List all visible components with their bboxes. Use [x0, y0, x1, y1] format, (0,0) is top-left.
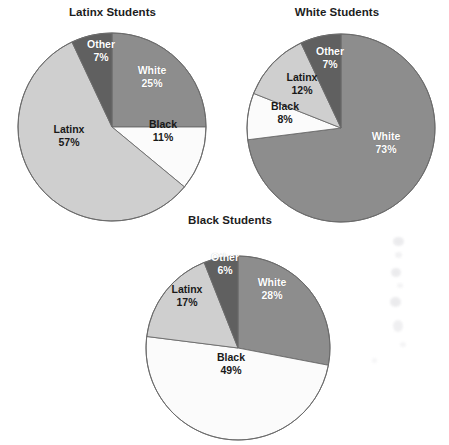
slice-label-latinx-students-latinx: Latinx57%: [29, 123, 109, 148]
slice-label-name: Other: [290, 45, 370, 58]
slice-label-white-students-latinx: Latinx12%: [262, 71, 342, 96]
slice-label-percent: 25%: [112, 77, 192, 90]
slice-label-name: White: [232, 276, 312, 289]
slice-label-latinx-students-black: Black11%: [123, 118, 203, 143]
slice-label-latinx-students-other: Other7%: [61, 38, 141, 63]
slice-label-percent: 57%: [29, 136, 109, 149]
slice-label-white-students-other: Other7%: [290, 45, 370, 70]
slice-label-white-students-white: White73%: [346, 130, 426, 155]
slice-label-name: Latinx: [29, 123, 109, 136]
slice-label-percent: 7%: [61, 51, 141, 64]
slice-label-percent: 73%: [346, 143, 426, 156]
slice-label-name: Black: [123, 118, 203, 131]
slice-label-percent: 11%: [123, 131, 203, 144]
slice-label-name: Black: [191, 351, 271, 364]
slice-label-name: Latinx: [147, 283, 227, 296]
slice-label-percent: 28%: [232, 289, 312, 302]
slice-label-latinx-students-white: White25%: [112, 64, 192, 89]
slice-label-white-students-black: Black8%: [245, 100, 325, 125]
slice-label-name: White: [112, 64, 192, 77]
slice-label-percent: 8%: [245, 113, 325, 126]
slice-label-name: Other: [61, 38, 141, 51]
slice-label-black-students-other: Other6%: [185, 251, 265, 276]
slice-label-percent: 12%: [262, 84, 342, 97]
slice-label-percent: 7%: [290, 58, 370, 71]
slice-label-black-students-black: Black49%: [191, 351, 271, 376]
slice-label-name: Latinx: [262, 71, 342, 84]
slice-label-name: Black: [245, 100, 325, 113]
slice-label-black-students-white: White28%: [232, 276, 312, 301]
slice-label-name: Other: [185, 251, 265, 264]
slice-label-percent: 17%: [147, 296, 227, 309]
slice-label-name: White: [346, 130, 426, 143]
slice-label-black-students-latinx: Latinx17%: [147, 283, 227, 308]
slice-label-percent: 49%: [191, 364, 271, 377]
slice-label-percent: 6%: [185, 264, 265, 277]
